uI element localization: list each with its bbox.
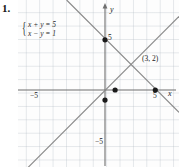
point-y-intercept-5	[102, 37, 107, 42]
equation-rows: x + y = 5 x − y = 1	[28, 20, 56, 38]
equation-line-1: x + y = 5	[28, 20, 56, 29]
x-axis-label: x	[168, 89, 172, 98]
point-y-intercept-neg1	[102, 98, 107, 103]
y-tick-label-5: 5	[108, 33, 112, 42]
system-of-equations: { x + y = 5 x − y = 1	[22, 20, 56, 38]
y-axis-arrow-icon	[103, 3, 108, 8]
equation-brace: {	[22, 20, 26, 37]
problem-number: 1.	[2, 2, 10, 14]
x-tick-label-5: 5	[153, 91, 157, 100]
line-x-plus-y-equals-5	[67, 0, 179, 112]
y-tick-label-neg5: −5	[95, 137, 103, 146]
point-x-intercept-1	[113, 87, 118, 92]
solution-point-label: (3, 2)	[142, 54, 158, 63]
x-tick-label-neg5: −5	[30, 91, 38, 100]
equation-line-2: x − y = 1	[28, 29, 56, 38]
y-axis-label: y	[110, 5, 114, 14]
figure-container: 1. { x + y = 5 x − y = 1 y x 5 5 −5 −5 (…	[0, 0, 179, 167]
